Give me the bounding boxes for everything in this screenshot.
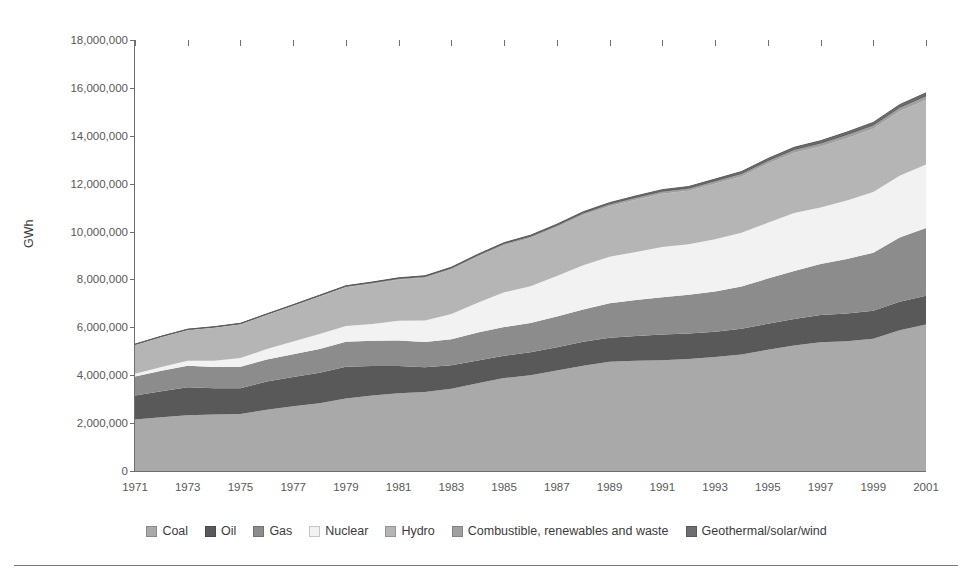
x-tick-label: 1987 bbox=[544, 481, 570, 493]
legend-item-coal[interactable]: Coal bbox=[146, 524, 188, 538]
x-tick-label: 1971 bbox=[122, 481, 148, 493]
legend-swatch-icon bbox=[309, 526, 320, 537]
y-tick-mark bbox=[130, 327, 135, 328]
y-tick-mark bbox=[130, 88, 135, 89]
y-tick-label: 2,000,000 bbox=[77, 417, 128, 429]
x-tick-mark bbox=[240, 40, 241, 46]
x-tick-label: 1993 bbox=[702, 481, 728, 493]
x-tick-label: 1989 bbox=[597, 481, 623, 493]
x-tick-label: 1973 bbox=[175, 481, 201, 493]
y-tick-label: 6,000,000 bbox=[77, 321, 128, 333]
x-tick-mark bbox=[768, 40, 769, 46]
legend-label: Nuclear bbox=[325, 524, 368, 538]
y-tick-label: 14,000,000 bbox=[70, 130, 128, 142]
y-tick-label: 0 bbox=[122, 465, 128, 477]
x-tick-mark bbox=[610, 40, 611, 46]
legend-item-gas[interactable]: Gas bbox=[253, 524, 292, 538]
x-tick-mark bbox=[293, 40, 294, 46]
legend-label: Coal bbox=[162, 524, 188, 538]
x-tick-label: 1999 bbox=[860, 481, 886, 493]
legend-item-nuclear[interactable]: Nuclear bbox=[309, 524, 368, 538]
legend-swatch-icon bbox=[385, 526, 396, 537]
x-tick-label: 1983 bbox=[439, 481, 465, 493]
x-tick-mark bbox=[715, 40, 716, 46]
x-tick-mark bbox=[504, 40, 505, 46]
chart-plot-area: 02,000,0004,000,0006,000,0008,000,00010,… bbox=[134, 40, 926, 472]
footer-divider bbox=[14, 565, 958, 566]
legend-swatch-icon bbox=[452, 526, 463, 537]
y-tick-mark bbox=[130, 136, 135, 137]
legend-item-geothermal-solar-wind[interactable]: Geothermal/solar/wind bbox=[686, 524, 827, 538]
y-tick-mark bbox=[130, 375, 135, 376]
y-tick-mark bbox=[130, 184, 135, 185]
y-tick-label: 16,000,000 bbox=[70, 82, 128, 94]
x-tick-mark bbox=[926, 40, 927, 46]
legend-item-oil[interactable]: Oil bbox=[205, 524, 236, 538]
x-tick-mark bbox=[821, 40, 822, 46]
x-tick-mark bbox=[662, 40, 663, 46]
x-tick-mark bbox=[399, 40, 400, 46]
y-tick-label: 8,000,000 bbox=[77, 273, 128, 285]
legend-label: Geothermal/solar/wind bbox=[702, 524, 827, 538]
stacked-area-svg bbox=[135, 40, 926, 471]
x-tick-label: 1975 bbox=[228, 481, 254, 493]
legend-label: Gas bbox=[269, 524, 292, 538]
x-tick-mark bbox=[873, 40, 874, 46]
x-tick-label: 2001 bbox=[913, 481, 939, 493]
y-tick-mark bbox=[130, 232, 135, 233]
x-tick-mark bbox=[188, 40, 189, 46]
legend-swatch-icon bbox=[146, 526, 157, 537]
legend-label: Combustible, renewables and waste bbox=[468, 524, 669, 538]
legend-swatch-icon bbox=[253, 526, 264, 537]
chart-legend: CoalOilGasNuclearHydroCombustible, renew… bbox=[0, 524, 973, 538]
y-tick-label: 4,000,000 bbox=[77, 369, 128, 381]
legend-label: Oil bbox=[221, 524, 236, 538]
x-tick-label: 1997 bbox=[808, 481, 834, 493]
y-tick-label: 12,000,000 bbox=[70, 178, 128, 190]
y-tick-mark bbox=[130, 279, 135, 280]
y-axis-label: GWh bbox=[22, 220, 36, 248]
legend-swatch-icon bbox=[686, 526, 697, 537]
legend-label: Hydro bbox=[401, 524, 434, 538]
x-tick-label: 1985 bbox=[491, 481, 517, 493]
legend-swatch-icon bbox=[205, 526, 216, 537]
x-tick-mark bbox=[346, 40, 347, 46]
x-tick-mark bbox=[557, 40, 558, 46]
legend-item-combustible-renewables-and-waste[interactable]: Combustible, renewables and waste bbox=[452, 524, 669, 538]
x-tick-mark bbox=[135, 40, 136, 46]
x-tick-label: 1977 bbox=[280, 481, 306, 493]
x-tick-label: 1995 bbox=[755, 481, 781, 493]
x-tick-mark bbox=[451, 40, 452, 46]
x-tick-label: 1981 bbox=[386, 481, 412, 493]
x-tick-label: 1991 bbox=[650, 481, 676, 493]
y-tick-mark bbox=[130, 423, 135, 424]
y-tick-label: 10,000,000 bbox=[70, 226, 128, 238]
y-tick-mark bbox=[130, 471, 135, 472]
x-tick-label: 1979 bbox=[333, 481, 359, 493]
legend-item-hydro[interactable]: Hydro bbox=[385, 524, 434, 538]
y-tick-label: 18,000,000 bbox=[70, 34, 128, 46]
